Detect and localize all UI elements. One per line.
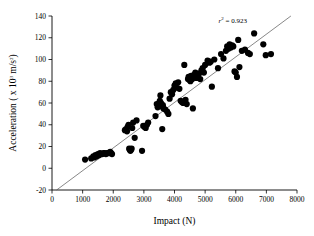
data-point bbox=[145, 119, 151, 125]
data-point bbox=[215, 65, 221, 71]
x-tick-label: 0 bbox=[50, 195, 54, 204]
x-tick-label: 5000 bbox=[198, 195, 213, 204]
y-tick-label: 120 bbox=[35, 33, 47, 42]
x-tick-label: 1000 bbox=[75, 195, 90, 204]
data-point bbox=[159, 126, 165, 132]
scatter-plot-figure: 010002000300040005000600070008000-200204… bbox=[0, 0, 314, 236]
data-point bbox=[197, 76, 203, 82]
data-point bbox=[157, 92, 163, 98]
data-point bbox=[260, 41, 266, 47]
data-point bbox=[109, 151, 115, 157]
y-tick-label: 20 bbox=[39, 142, 47, 151]
linear-regression-line bbox=[57, 16, 291, 190]
x-tick-label: 6000 bbox=[228, 195, 243, 204]
data-point bbox=[184, 101, 190, 107]
data-point bbox=[209, 84, 215, 90]
x-tick-label: 2000 bbox=[106, 195, 121, 204]
annotations-group: r2 = 0.923 bbox=[218, 16, 247, 25]
r-squared-annotation: r2 = 0.923 bbox=[218, 16, 247, 25]
y-tick-label: 100 bbox=[35, 55, 47, 64]
data-point bbox=[139, 148, 145, 154]
data-points-group bbox=[82, 30, 274, 162]
data-point bbox=[220, 55, 226, 61]
data-point bbox=[251, 30, 257, 36]
y-axis-title: Acceleration ( x 103 m/s2) bbox=[8, 54, 19, 151]
data-point bbox=[165, 111, 171, 117]
data-point bbox=[201, 69, 207, 75]
x-tick-label: 4000 bbox=[167, 195, 182, 204]
chart-canvas: 010002000300040005000600070008000-200204… bbox=[0, 0, 314, 236]
data-point bbox=[190, 105, 196, 111]
x-axis-title: Impact (N) bbox=[154, 216, 196, 227]
data-point bbox=[129, 125, 135, 131]
data-point bbox=[211, 56, 217, 62]
data-point bbox=[235, 37, 241, 43]
data-point bbox=[268, 51, 274, 57]
regression-line-group bbox=[57, 16, 291, 190]
y-tick-label: -20 bbox=[36, 186, 46, 195]
y-tick-label: 60 bbox=[39, 99, 47, 108]
data-point bbox=[234, 74, 240, 80]
y-tick-label: 0 bbox=[42, 164, 46, 173]
y-tick-label: 80 bbox=[39, 77, 47, 86]
x-tick-label: 7000 bbox=[259, 195, 274, 204]
data-point bbox=[132, 135, 138, 141]
data-point bbox=[230, 43, 236, 49]
data-point bbox=[152, 113, 158, 119]
data-point bbox=[176, 86, 182, 92]
data-point bbox=[133, 117, 139, 123]
data-point bbox=[82, 156, 88, 162]
x-tick-label: 8000 bbox=[290, 195, 305, 204]
data-point bbox=[247, 51, 253, 57]
data-point bbox=[263, 52, 269, 58]
y-tick-label: 140 bbox=[35, 12, 47, 21]
x-tick-label: 3000 bbox=[136, 195, 151, 204]
y-tick-label: 40 bbox=[39, 120, 47, 129]
axes: 010002000300040005000600070008000-200204… bbox=[35, 12, 305, 204]
data-point bbox=[175, 79, 181, 85]
data-point bbox=[181, 62, 187, 68]
data-point bbox=[129, 146, 135, 152]
data-point bbox=[236, 64, 242, 70]
